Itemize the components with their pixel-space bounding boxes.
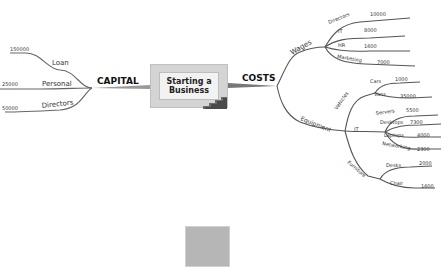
directors-capital-value: 50000 xyxy=(2,105,18,111)
costs-label: COSTS xyxy=(242,73,275,83)
capital-label: CAPITAL xyxy=(97,76,139,86)
desks-label: Desks xyxy=(386,162,401,168)
central-topic-line1: Starting a xyxy=(166,77,211,86)
personal-value: 25000 xyxy=(2,81,18,87)
wages-label: Wages xyxy=(289,38,313,57)
wages-it-label: IT xyxy=(338,28,343,34)
wages-hr-label: HR xyxy=(338,42,346,48)
vans-label: Vans xyxy=(374,91,386,97)
vans-value: 35000 xyxy=(400,93,416,99)
laptops-value: 4000 xyxy=(417,132,430,138)
chair-label: Chair xyxy=(390,180,404,186)
costs-connector xyxy=(228,83,277,88)
chair-value: 1600 xyxy=(421,183,434,189)
wages-directors-value: 10000 xyxy=(370,11,386,17)
desks-value: 2000 xyxy=(419,160,432,166)
networking-label: Networking xyxy=(382,140,411,152)
cars-value: 1000 xyxy=(395,76,408,82)
central-topic[interactable]: Starting a Business xyxy=(150,64,228,108)
wages-marketing-value: 7000 xyxy=(377,59,390,65)
laptops-label: Laptops xyxy=(384,132,404,139)
equipment-label: Equipment xyxy=(299,114,333,134)
personal-label: Personal xyxy=(42,80,72,88)
central-topic-line2: Business xyxy=(169,86,209,95)
loan-label: Loan xyxy=(52,59,69,67)
servers-value: 5500 xyxy=(406,107,419,113)
wages-hr-value: 1600 xyxy=(364,43,377,49)
wages-it-value: 8000 xyxy=(364,27,377,33)
servers-label: Servers xyxy=(375,107,395,116)
loan-value: 150000 xyxy=(10,46,29,52)
wages-directors-label: Directors xyxy=(327,11,351,25)
stairs-icon xyxy=(203,95,229,109)
image-placeholder xyxy=(185,226,230,267)
cars-label: Cars xyxy=(370,78,382,84)
vehicles-label: Vehicles xyxy=(333,90,350,111)
desktops-value: 7300 xyxy=(410,119,423,125)
desktops-label: Desktops xyxy=(380,119,404,126)
networking-value: 2300 xyxy=(417,146,430,152)
